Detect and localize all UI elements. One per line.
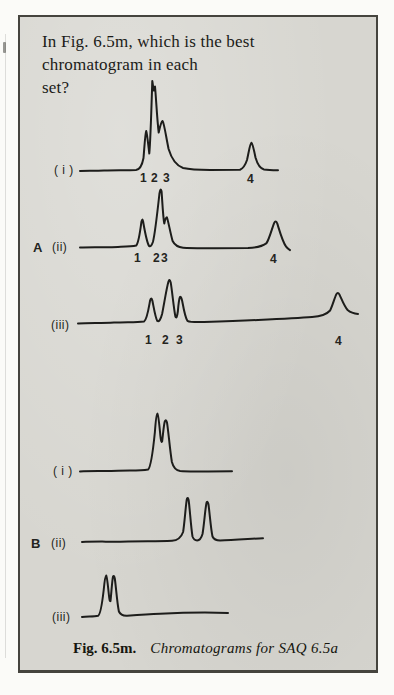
scan-artifact-mark <box>3 42 6 53</box>
chromatogram-a-iii-label: (iii) <box>51 318 70 332</box>
peak-label: 2 <box>153 251 160 265</box>
caption-title: Chromatograms for SAQ 6.5a <box>150 640 338 656</box>
chromatogram-b-iii-label: (iii) <box>52 610 71 624</box>
peak-label: 2 <box>162 333 169 347</box>
peak-label: 4 <box>270 252 277 266</box>
peak-label: 3 <box>161 251 168 265</box>
chromatogram-a-i-label: ( i ) <box>54 163 74 177</box>
chromatogram-a-ii-label: (ii) <box>52 240 67 254</box>
peak-label: 1 <box>145 333 152 347</box>
question-line1: In Fig. 6.5m, which is the best chromato… <box>42 30 354 76</box>
set-b-label: B <box>31 536 41 551</box>
question-line2: set? <box>42 76 354 99</box>
question-text: In Fig. 6.5m, which is the best chromato… <box>42 30 354 99</box>
chromatogram-b-ii-label: (ii) <box>51 536 66 550</box>
peak-label: 1 <box>134 251 141 265</box>
peak-label: 3 <box>163 171 170 185</box>
caption-label: Fig. 6.5m. <box>73 640 136 656</box>
figure-caption: Fig. 6.5m.Chromatograms for SAQ 6.5a <box>73 640 338 657</box>
chromatogram-b-i-label: ( i ) <box>53 464 73 478</box>
scanned-textbook-page: In Fig. 6.5m, which is the best chromato… <box>0 0 394 695</box>
set-a-label: A <box>33 240 43 255</box>
peak-label: 3 <box>176 333 183 347</box>
figure-box <box>18 15 378 673</box>
peak-label: 1 <box>140 171 147 185</box>
peak-label: 4 <box>247 172 254 186</box>
peak-label: 4 <box>335 334 342 348</box>
page-gutter-shadow <box>5 34 6 658</box>
peak-label: 2 <box>151 171 158 185</box>
